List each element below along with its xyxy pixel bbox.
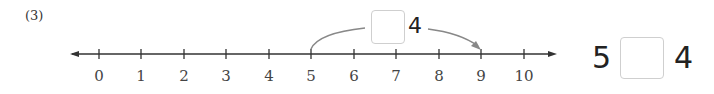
equation-answer-box[interactable] xyxy=(620,37,664,79)
jump-arc-end xyxy=(428,29,478,46)
jump-arc-start xyxy=(311,28,365,49)
tick-label: 8 xyxy=(427,67,451,85)
tick-label: 3 xyxy=(214,67,238,85)
right-arrow-icon xyxy=(548,51,557,57)
tick-label: 10 xyxy=(512,67,536,85)
equation-right: 4 xyxy=(674,40,693,75)
tick-label: 0 xyxy=(87,67,111,85)
tick-label: 4 xyxy=(257,67,281,85)
tick-label: 2 xyxy=(172,67,196,85)
jump-answer-box[interactable] xyxy=(371,10,405,44)
tick-label: 5 xyxy=(299,67,323,85)
tick-label: 1 xyxy=(129,67,153,85)
tick-label: 7 xyxy=(384,67,408,85)
tick-label: 6 xyxy=(342,67,366,85)
tick-label: 9 xyxy=(469,67,493,85)
jump-label-suffix: 4 xyxy=(408,13,422,38)
equation-left: 5 xyxy=(592,40,611,75)
left-arrow-icon xyxy=(70,51,79,57)
